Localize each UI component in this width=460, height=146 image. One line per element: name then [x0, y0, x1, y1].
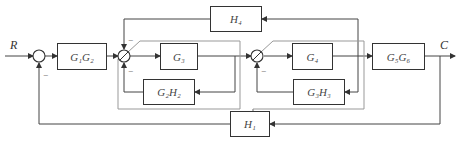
minus-sign-sum3: −: [261, 66, 266, 76]
block-g3h3: G₃H₃: [293, 79, 345, 105]
minus-sign-sum2-bottom: −: [128, 66, 133, 76]
input-label: R: [10, 38, 17, 53]
block-g1g2: G₁G₂: [57, 43, 107, 70]
block-g4: G₄: [292, 43, 333, 70]
block-g2h2: G₂H₂: [143, 79, 195, 105]
block-g3: G₃: [160, 43, 198, 70]
minus-sign-sum2-top: −: [128, 35, 133, 45]
minus-sign-sum1: −: [43, 70, 48, 80]
block-g5g6: G₅G₆: [372, 43, 425, 70]
block-h1: H₁: [230, 111, 270, 137]
output-label: C: [440, 38, 448, 53]
block-h4: H₄: [210, 6, 262, 32]
block-diagram: R C G₁G₂ G₃ G₂H₂ H₄ G₄ G₃H₃ G₅G₆ H₁ − − …: [0, 0, 460, 146]
